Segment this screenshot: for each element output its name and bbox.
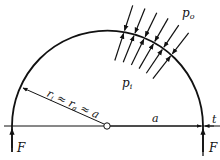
radius-relation-label: ri ≈ ra ≈ a	[44, 87, 101, 123]
outer-pressure-arrow	[125, 5, 133, 30]
center-point	[104, 123, 110, 129]
outer-pressure-arrow	[172, 33, 188, 54]
inner-pressure-arrow	[115, 33, 124, 60]
inner-pressure-label: pi	[122, 76, 133, 91]
thickness-label: t	[212, 113, 217, 126]
inner-pressure-arrow	[123, 36, 134, 62]
semicircle-shell	[12, 31, 203, 152]
half-span-label: a	[152, 112, 159, 125]
outer-pressure-arrow	[145, 13, 157, 37]
shell-diagram: po pi ri ≈ ra ≈ a a t F F	[0, 0, 220, 160]
force-label-right: F	[208, 141, 218, 155]
force-label-left: F	[16, 141, 26, 155]
outer-pressure-arrow	[135, 8, 145, 33]
inner-pressure-arrow	[131, 39, 143, 65]
outer-pressure-arrow	[155, 18, 168, 41]
outer-pressure-arrow	[164, 25, 179, 47]
outer-pressure-label: po	[182, 6, 195, 21]
